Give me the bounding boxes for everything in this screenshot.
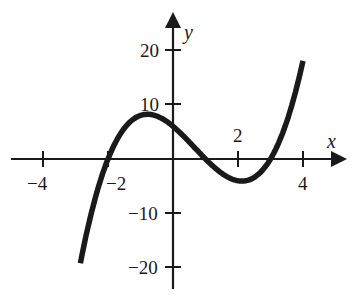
cubic-function-graph: y x −4 −2 2 4 20 10 −10 −20 <box>0 0 353 296</box>
y-axis-label: y <box>184 22 193 42</box>
y-tick-label-neg20: −20 <box>128 258 158 277</box>
x-axis-label: x <box>327 131 336 151</box>
y-tick-label-20: 20 <box>140 41 159 60</box>
x-axis-arrow-icon <box>331 151 347 167</box>
y-tick-label-10: 10 <box>140 95 159 114</box>
x-tick-label-4: 4 <box>298 174 308 193</box>
plot-area <box>0 0 353 296</box>
x-tick-label-neg2: −2 <box>106 174 126 193</box>
y-axis-arrow-icon <box>165 12 181 28</box>
x-tick-label-neg4: −4 <box>27 174 47 193</box>
y-tick-label-neg10: −10 <box>128 204 158 223</box>
x-tick-label-2: 2 <box>233 126 243 145</box>
function-curve <box>80 61 303 263</box>
